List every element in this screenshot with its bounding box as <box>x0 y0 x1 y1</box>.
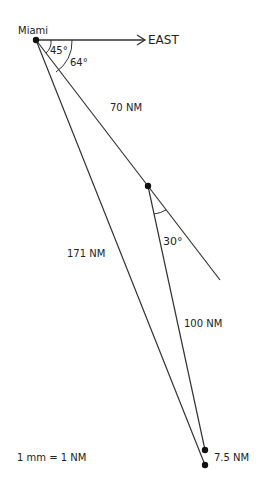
scale-label: 1 mm = 1 NM <box>17 453 86 463</box>
direct-distance-label: 171 NM <box>67 249 105 259</box>
east-label: EAST <box>148 34 179 46</box>
miami-dot <box>33 37 39 43</box>
navigation-diagram: Miami EAST 45° 64° 70 NM 30° 171 NM 100 … <box>0 0 264 496</box>
diagram-lines <box>0 0 264 496</box>
leg2-distance-label: 100 NM <box>184 319 222 329</box>
leg1-line <box>36 40 220 280</box>
angle-45-label: 45° <box>50 46 68 56</box>
angle-30-label: 30° <box>163 236 183 247</box>
actual-position-dot <box>202 447 208 453</box>
offset-distance-label: 7.5 NM <box>214 453 249 463</box>
miami-label: Miami <box>18 26 48 36</box>
leg1-distance-label: 70 NM <box>110 103 142 113</box>
angle-64-label: 64° <box>70 58 88 68</box>
angle-30-arc <box>154 210 166 214</box>
turn-point-dot <box>145 183 151 189</box>
destination-dot <box>202 462 208 468</box>
